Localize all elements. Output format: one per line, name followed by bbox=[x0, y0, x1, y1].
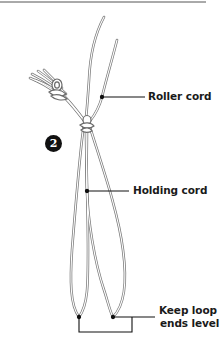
diagram-figure: 2 Roller cord Holding cord Keep loop end… bbox=[0, 0, 221, 351]
holding-cord-label: Holding cord bbox=[133, 184, 207, 197]
keep-loop-line2: ends level bbox=[159, 317, 219, 330]
keep-loop-ends-level-label: Keep loop ends level bbox=[159, 304, 219, 330]
roller-cord-label: Roller cord bbox=[148, 90, 211, 103]
cord-illustration bbox=[0, 0, 221, 351]
step-number-badge: 2 bbox=[45, 135, 62, 152]
keep-loop-line1: Keep loop bbox=[159, 304, 219, 317]
level-bracket bbox=[79, 317, 132, 332]
step-number: 2 bbox=[50, 137, 58, 150]
cords bbox=[30, 17, 125, 317]
